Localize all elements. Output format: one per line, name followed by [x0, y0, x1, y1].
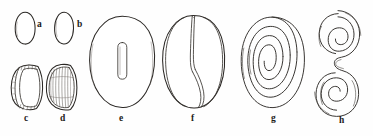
- specimen-plate: a b c d e f g h: [0, 0, 373, 136]
- figure-h-drawing: [315, 11, 361, 117]
- figure-label-a: a: [37, 20, 42, 30]
- figure-label-b: b: [77, 20, 82, 30]
- figure-e-drawing: [90, 16, 155, 107]
- figure-d-drawing: [46, 64, 77, 110]
- figure-label-d: d: [60, 114, 65, 124]
- figure-c-drawing: [11, 65, 42, 110]
- figure-label-h: h: [339, 116, 344, 126]
- figure-b-drawing: [55, 12, 74, 44]
- figure-g-drawing: [241, 17, 304, 108]
- figure-label-e: e: [119, 114, 123, 124]
- figure-f-drawing: [163, 16, 225, 108]
- plate-drawing: [0, 0, 373, 136]
- figure-label-f: f: [191, 114, 194, 124]
- figure-label-g: g: [271, 114, 276, 124]
- figure-a-drawing: [15, 12, 35, 44]
- figure-label-c: c: [24, 114, 28, 124]
